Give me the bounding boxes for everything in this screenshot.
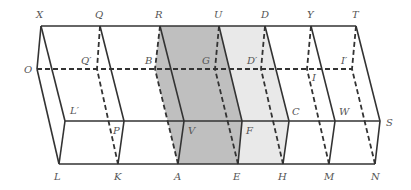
label-P: P bbox=[112, 125, 120, 136]
label-N: N bbox=[370, 171, 381, 182]
label-L: L bbox=[53, 171, 61, 182]
label-K: K bbox=[113, 171, 122, 182]
label-L-prime: L′ bbox=[69, 105, 80, 116]
label-X: X bbox=[35, 9, 44, 20]
label-W: W bbox=[339, 106, 350, 117]
label-S: S bbox=[386, 117, 393, 128]
label-T: T bbox=[352, 9, 360, 20]
label-A: A bbox=[173, 171, 181, 182]
label-U: U bbox=[214, 9, 223, 20]
label-D: D bbox=[260, 9, 269, 20]
label-Q-prime: Q′ bbox=[81, 55, 92, 66]
label-I: I bbox=[311, 72, 317, 83]
label-F: F bbox=[245, 125, 254, 136]
prism-figure: X Q R U D Y T O Q′ B G D′ I I′ L′ P V F … bbox=[0, 0, 411, 190]
label-C: C bbox=[292, 106, 300, 117]
label-H: H bbox=[277, 171, 287, 182]
label-Y: Y bbox=[307, 9, 315, 20]
label-D-prime: D′ bbox=[246, 55, 258, 66]
label-G: G bbox=[202, 55, 210, 66]
label-E: E bbox=[232, 171, 241, 182]
label-Q: Q bbox=[95, 9, 103, 20]
label-M: M bbox=[323, 171, 335, 182]
label-B: B bbox=[144, 55, 152, 66]
label-O: O bbox=[24, 64, 32, 75]
diagram: X Q R U D Y T O Q′ B G D′ I I′ L′ P V F … bbox=[0, 0, 411, 190]
label-R: R bbox=[154, 9, 163, 20]
label-I-prime: I′ bbox=[340, 55, 348, 66]
